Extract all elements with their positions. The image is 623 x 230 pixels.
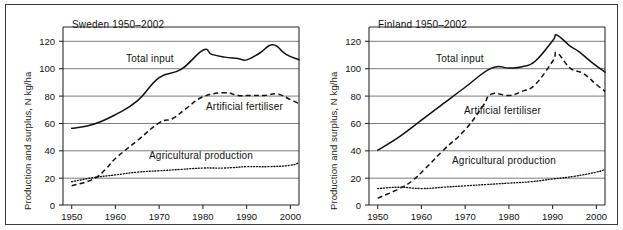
y-tick-40: 40: [44, 145, 55, 156]
series-total-input-sweden: [72, 45, 299, 129]
x-tick-1960: 1960: [105, 211, 126, 222]
x-tick-1990: 1990: [236, 211, 257, 222]
y-tick-120: 120: [39, 36, 55, 47]
series-artificial-fertiliser-sweden: [72, 93, 299, 186]
y-tick-labels-sweden: 0 20 40 60 80 100 120: [39, 36, 55, 211]
x-tick-2000: 2000: [586, 211, 607, 222]
x-tick-1970: 1970: [149, 211, 170, 222]
x-tick-labels-finland: 1950 1960 1970 1980 1990 2000: [367, 211, 607, 222]
y-tick-80: 80: [44, 91, 55, 102]
data-series-finland: [378, 35, 605, 198]
chart-panel-finland: Production and surplus, N kg/ha Finland …: [312, 5, 618, 226]
x-tick-2000: 2000: [280, 211, 301, 222]
x-tick-1990: 1990: [542, 211, 563, 222]
chart-svg-sweden: 0 20 40 60 80 100 120 1950: [6, 5, 312, 226]
series-total-input-finland: [378, 35, 605, 150]
y-tick-marks-finland: [365, 41, 369, 205]
data-series-sweden: [72, 45, 299, 186]
y-tick-100: 100: [39, 63, 55, 74]
x-tick-1980: 1980: [498, 211, 519, 222]
chart-svg-finland: 0 20 40 60 80 100 120 1950: [312, 5, 618, 226]
y-tick-labels-finland: 0 20 40 60 80 100 120: [345, 36, 361, 211]
y-tick-40: 40: [350, 145, 361, 156]
y-tick-100: 100: [345, 63, 361, 74]
x-tick-marks-finland: [378, 205, 597, 209]
y-tick-80: 80: [350, 91, 361, 102]
y-tick-60: 60: [44, 118, 55, 129]
series-agricultural-production-finland: [378, 169, 605, 188]
y-tick-20: 20: [350, 173, 361, 184]
y-tick-20: 20: [44, 173, 55, 184]
figure-root: Production and surplus, N kg/ha Sweden 1…: [0, 0, 623, 230]
series-agricultural-production-sweden: [72, 163, 299, 182]
x-tick-1960: 1960: [411, 211, 432, 222]
x-tick-labels-sweden: 1950 1960 1970 1980 1990 2000: [61, 211, 301, 222]
x-tick-1950: 1950: [367, 211, 388, 222]
y-tick-0: 0: [50, 200, 55, 211]
y-tick-0: 0: [356, 200, 361, 211]
x-tick-1970: 1970: [455, 211, 476, 222]
y-tick-120: 120: [345, 36, 361, 47]
y-tick-marks-sweden: [59, 41, 63, 205]
figure-outer-frame: Production and surplus, N kg/ha Sweden 1…: [5, 4, 618, 225]
grid-lines-sweden: [63, 41, 299, 178]
x-tick-marks-sweden: [72, 205, 291, 209]
grid-lines-finland: [369, 41, 605, 178]
chart-panel-sweden: Production and surplus, N kg/ha Sweden 1…: [6, 5, 312, 226]
x-tick-1950: 1950: [61, 211, 82, 222]
y-tick-60: 60: [350, 118, 361, 129]
x-tick-1980: 1980: [192, 211, 213, 222]
